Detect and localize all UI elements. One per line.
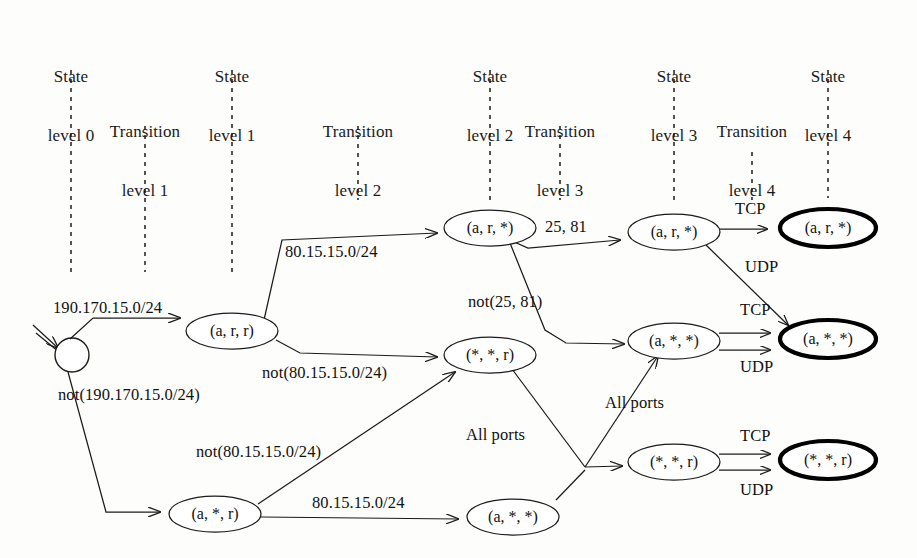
node-star-star-r-l3[interactable]: (*, *, r)	[628, 444, 720, 480]
header-line-1: Transition	[298, 122, 418, 142]
node-label: (a, *, *)	[803, 330, 853, 348]
header-state-level-4: State level 4	[778, 28, 878, 184]
node-final-a-star-star[interactable]: (a, *, *)	[780, 320, 876, 358]
header-line-1: State	[778, 67, 878, 87]
node-final-star-star-r[interactable]: (*, *, r)	[780, 441, 876, 479]
edge-label-190-170-15-0-24: 190.170.15.0/24	[53, 298, 162, 317]
edge-label-not-80-15-15-0-24-b: not(80.15.15.0/24)	[196, 442, 321, 461]
node-a-star-star-l3[interactable]: (a, *, *)	[628, 323, 720, 359]
edge-arr-to-l2ssr	[276, 340, 437, 357]
edge-label-tcp-3: TCP	[740, 426, 771, 445]
node-a-star-r-l1[interactable]: (a, *, r)	[169, 496, 261, 532]
edge-l2ssr-to-l3ssr	[585, 466, 622, 467]
node-label: (*, *, r)	[650, 453, 698, 471]
edge-label-udp-2: UDP	[740, 357, 773, 376]
header-line-1: Transition	[500, 122, 620, 142]
header-state-level-1: State level 1	[182, 28, 282, 184]
edge-label-not-190-170-15-0-24: not(190.170.15.0/24)	[58, 385, 200, 404]
edge-label-udp-1: UDP	[745, 257, 778, 276]
edge-label-80-15-15-0-24-top: 80.15.15.0/24	[285, 242, 378, 261]
node-a-r-r[interactable]: (a, r, r)	[186, 313, 278, 349]
node-label: (*, *, r)	[804, 451, 852, 469]
node-label: (a, *, r)	[191, 505, 238, 523]
header-transition-level-3: Transition level 3	[500, 83, 620, 239]
header-line-2: level 3	[500, 181, 620, 201]
edge-branch-stub	[556, 470, 585, 500]
header-line-1: State	[182, 67, 282, 87]
edge-label-all-ports-2: All ports	[605, 393, 664, 412]
edge-label-not-80-15-15-0-24-a: not(80.15.15.0/24)	[262, 363, 387, 382]
edge-label-not-25-81: not(25, 81)	[468, 292, 542, 311]
edge-asr-to-l2ass	[261, 517, 458, 519]
edge-l2ars-to-l3ars	[512, 240, 620, 248]
edge-l2ssr-branch-stem	[512, 369, 585, 467]
start-state[interactable]	[55, 338, 89, 372]
node-label: (*, *, r)	[466, 346, 514, 364]
node-label: (a, *, *)	[649, 332, 699, 350]
header-line-2: level 4	[778, 126, 878, 146]
header-line-2: level 2	[298, 181, 418, 201]
node-star-star-r-l2[interactable]: (*, *, r)	[444, 337, 536, 373]
node-a-star-star-l2[interactable]: (a, *, *)	[467, 499, 559, 535]
node-label: (a, r, r)	[210, 322, 254, 340]
start-state-group[interactable]	[33, 325, 89, 372]
header-line-2: level 1	[182, 126, 282, 146]
header-transition-level-2: Transition level 2	[298, 83, 418, 239]
diagram-canvas: (a, r, r) (a, *, r) (a, r, *) (*, *, r) …	[0, 0, 917, 558]
edge-label-tcp-2: TCP	[740, 300, 771, 319]
edge-label-80-15-15-0-24-bot: 80.15.15.0/24	[312, 493, 405, 512]
start-arrow-icon	[33, 325, 58, 348]
node-label: (a, *, *)	[488, 508, 538, 526]
edge-start-to-arr	[70, 318, 180, 339]
node-label: (a, r, *)	[651, 223, 697, 241]
edge-label-udp-3: UDP	[740, 480, 773, 499]
edge-asr-to-l2ssr	[258, 372, 455, 504]
edge-label-all-ports-1: All ports	[466, 425, 525, 444]
